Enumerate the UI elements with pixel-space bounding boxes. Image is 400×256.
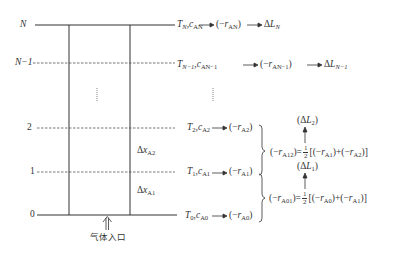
state-N: TN,cAN — [177, 20, 203, 31]
arrows-rows-2-1-0 — [212, 126, 227, 218]
level-label-N: N — [20, 20, 26, 30]
delta-L-1: (ΔL1) — [297, 162, 318, 173]
rate-2: (−rA2) — [229, 123, 252, 134]
delta-L-N: ΔLN — [264, 20, 280, 31]
state-1: T1,cA1 — [187, 167, 210, 178]
brace-upper — [259, 125, 265, 175]
state-2: T2,cA2 — [187, 123, 210, 134]
level-label-0: 0 — [30, 210, 35, 220]
avg-rate-A01-equation: (−rA01)=12[(−rA0)+(−rA1)] — [269, 191, 367, 206]
rate-0: (−rA0) — [229, 211, 252, 222]
level-label-N-1: N−1 — [15, 58, 33, 68]
state-0: T0,cA0 — [185, 211, 208, 222]
state-N-1: TN−1,cAN−1 — [177, 60, 217, 71]
rate-N-1: (−rAN−1) — [260, 60, 292, 71]
gas-inlet-arrow-icon — [103, 217, 112, 231]
avg-rate-A12-equation: (−rA12)=12[(−rA1)+(−rA2)] — [270, 145, 368, 160]
brace-lower — [259, 174, 265, 222]
gas-inlet-label: 气体入口 — [90, 233, 126, 242]
segment-label-dx-A1: ΔxA1 — [137, 186, 155, 197]
delta-L-N-1: ΔLN−1 — [324, 60, 347, 71]
level-label-1: 1 — [30, 167, 35, 177]
delta-L-2: (ΔL2) — [297, 116, 318, 127]
segment-label-dx-A2: ΔxA2 — [137, 146, 155, 157]
rate-1: (−rA1) — [229, 167, 252, 178]
level-label-2: 2 — [27, 123, 32, 133]
rate-N: (−rAN) — [216, 20, 241, 31]
